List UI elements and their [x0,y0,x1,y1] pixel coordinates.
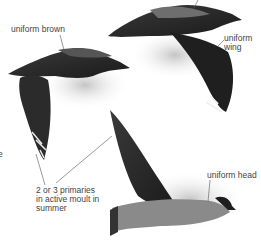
label-uniform-brown: uniform brown [11,25,65,34]
label-uniform-head: uniform head [207,171,257,180]
leader-line-primaries-right [56,136,112,183]
bird-illustration: uniform brown uniform wing 2 or 3 primar… [0,0,261,244]
label-primaries-moult: 2 or 3 primaries in active moult in summ… [36,186,99,213]
leader-line-brown [60,35,64,50]
label-uniform-wing: uniform wing [224,34,252,52]
label-edge-fragment: e [0,150,3,159]
